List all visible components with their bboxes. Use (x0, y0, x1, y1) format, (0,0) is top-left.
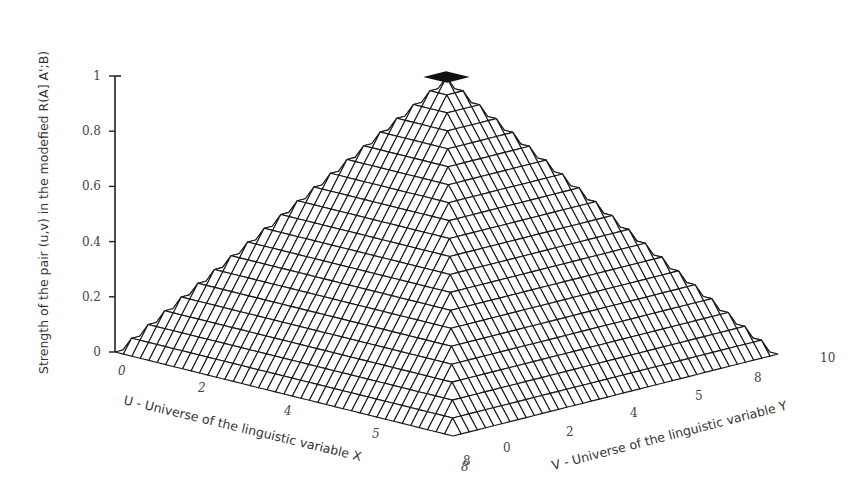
z-axis-title: Strength of the pair (u,v) in the modefi… (36, 51, 51, 374)
z-tick-label: 0.4 (82, 235, 101, 249)
u-tick-label: 2 (197, 381, 206, 395)
z-tick-label: 0 (93, 345, 101, 359)
v-tick-label: 8 (463, 454, 471, 468)
v-tick-label: 0 (503, 441, 511, 455)
surface-plot: 00.20.40.60.81 Strength of the pair (u,v… (0, 0, 864, 498)
z-tick-label: 0.2 (82, 290, 101, 304)
v-tick-label: 10 (820, 351, 835, 365)
u-tick-label: 5 (372, 427, 380, 441)
v-axis-title: V - Universe of the linguistic variable … (550, 398, 789, 473)
pyramid-surface-mesh (115, 71, 778, 436)
z-axis-ticks: 00.20.40.60.81 (82, 69, 115, 359)
v-tick-label: 5 (695, 389, 703, 403)
u-tick-label: 0 (118, 364, 126, 378)
v-tick-label: 8 (754, 371, 762, 385)
z-tick-label: 1 (93, 69, 101, 83)
v-tick-label: 4 (630, 406, 638, 420)
u-tick-label: 4 (283, 404, 292, 418)
z-tick-label: 0.8 (82, 124, 101, 138)
z-axis: 00.20.40.60.81 (82, 69, 121, 359)
z-tick-label: 0.6 (82, 179, 101, 193)
surface-peak (423, 71, 469, 83)
v-tick-label: 2 (566, 425, 574, 439)
